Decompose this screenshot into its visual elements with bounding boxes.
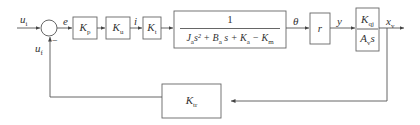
valve-denominator: Avs <box>356 33 379 47</box>
kt-block: Kt <box>143 22 161 36</box>
displacement-signal-label: y <box>337 16 342 27</box>
summing-junction <box>41 20 57 36</box>
feedback-signal-label: uf <box>35 43 43 57</box>
output-signal-label: xv <box>386 16 394 30</box>
valve-numerator: Kqj <box>356 14 379 28</box>
ktr-block: Ktr <box>162 95 221 109</box>
plant-denominator: Jas² + Ba s + Ka − Km <box>174 33 286 46</box>
ku-block: Ku <box>106 22 130 36</box>
kp-block: Kp <box>73 22 97 36</box>
current-signal-label: i <box>134 16 137 27</box>
error-signal-label: e <box>63 16 68 27</box>
angle-signal-label: θ <box>293 16 298 27</box>
input-signal-label: ui <box>20 14 27 28</box>
r-block: r <box>310 23 330 34</box>
minus-sign: − <box>52 36 58 46</box>
plant-numerator: 1 <box>174 14 286 25</box>
